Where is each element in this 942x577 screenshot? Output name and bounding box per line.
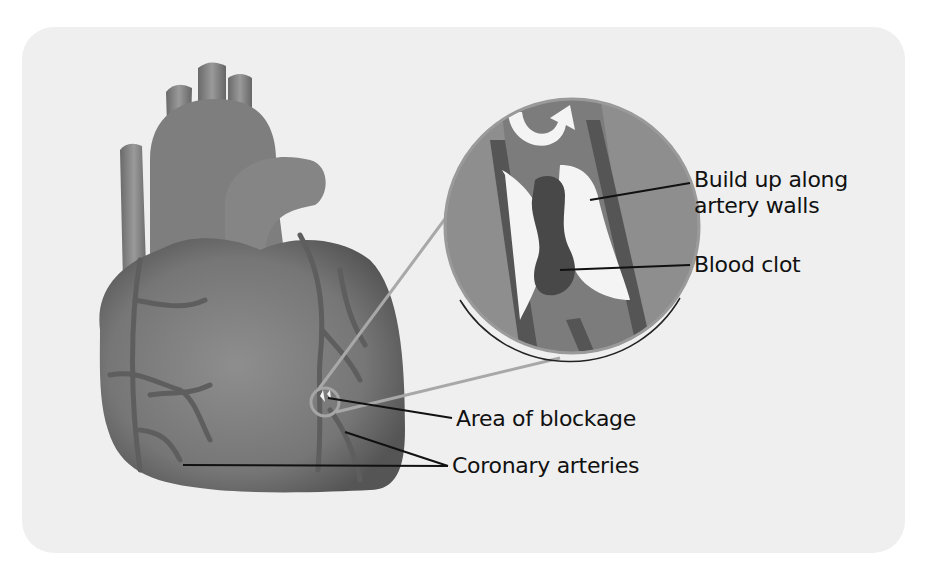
magnified-artery-view: [440, 95, 710, 365]
ventricles: [99, 238, 405, 492]
label-buildup: Build up along artery walls: [694, 167, 848, 219]
label-blood-clot: Blood clot: [694, 252, 800, 278]
label-buildup-line2: artery walls: [694, 193, 848, 219]
label-coronary-arteries: Coronary arteries: [452, 453, 639, 479]
label-buildup-line1: Build up along: [694, 167, 848, 193]
heart-diagram: [0, 0, 942, 577]
heart: [99, 62, 405, 492]
label-area-of-blockage: Area of blockage: [456, 406, 636, 432]
